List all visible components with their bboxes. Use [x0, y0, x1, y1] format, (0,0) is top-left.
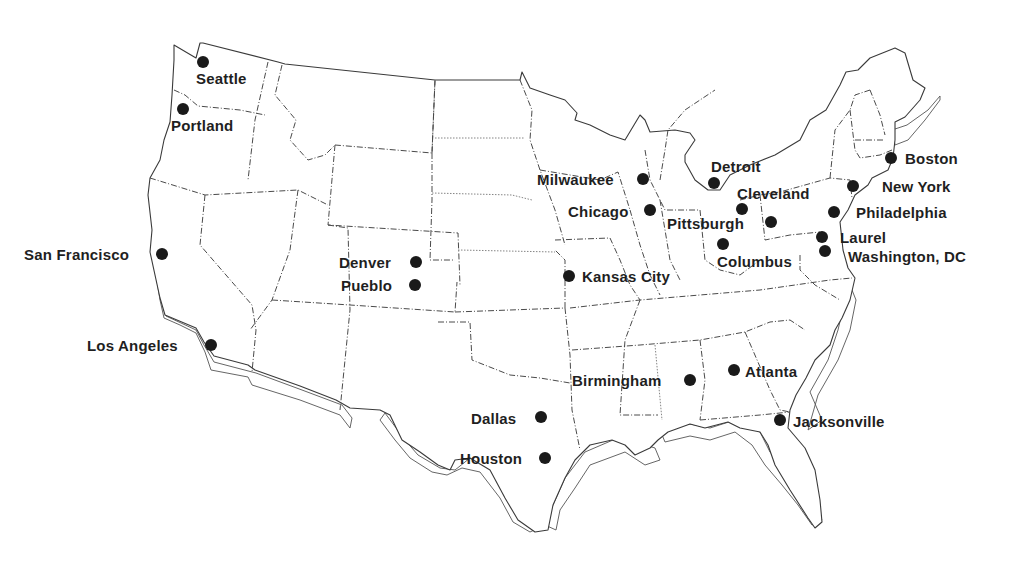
city-dot-washington-dc[interactable]	[819, 245, 831, 257]
city-dot-los-angeles[interactable]	[205, 339, 217, 351]
city-label-philadelphia: Philadelphia	[856, 204, 947, 221]
city-dot-boston[interactable]	[885, 152, 897, 164]
city-dot-houston[interactable]	[539, 452, 551, 464]
city-dot-kansas-city[interactable]	[563, 270, 575, 282]
city-dot-denver[interactable]	[410, 256, 422, 268]
city-label-chicago: Chicago	[568, 203, 629, 220]
city-label-cleveland: Cleveland	[737, 185, 810, 202]
city-dot-cleveland[interactable]	[736, 203, 748, 215]
city-label-seattle: Seattle	[196, 70, 247, 87]
city-label-atlanta: Atlanta	[745, 363, 797, 380]
city-dot-new-york[interactable]	[847, 180, 859, 192]
city-label-san-francisco: San Francisco	[24, 246, 129, 263]
city-label-boston: Boston	[905, 150, 958, 167]
city-dot-detroit[interactable]	[708, 177, 720, 189]
city-dot-pueblo[interactable]	[409, 279, 421, 291]
city-label-kansas-city: Kansas City	[582, 268, 670, 285]
city-label-houston: Houston	[460, 450, 522, 467]
city-dot-milwaukee[interactable]	[637, 173, 649, 185]
city-dot-pittsburgh[interactable]	[765, 216, 777, 228]
city-label-jacksonville: Jacksonville	[793, 413, 885, 430]
city-label-new-york: New York	[882, 178, 951, 195]
city-dot-laurel[interactable]	[816, 231, 828, 243]
city-dot-columbus[interactable]	[717, 238, 729, 250]
us-map	[0, 0, 1013, 564]
city-dot-philadelphia[interactable]	[828, 206, 840, 218]
city-label-columbus: Columbus	[717, 253, 792, 270]
city-label-birmingham: Birmingham	[572, 372, 662, 389]
city-dot-atlanta[interactable]	[728, 364, 740, 376]
city-label-portland: Portland	[171, 117, 233, 134]
city-label-pittsburgh: Pittsburgh	[667, 215, 744, 232]
city-dot-portland[interactable]	[177, 103, 189, 115]
city-label-los-angeles: Los Angeles	[87, 337, 178, 354]
city-label-dallas: Dallas	[471, 410, 516, 427]
city-dot-birmingham[interactable]	[684, 374, 696, 386]
city-dot-dallas[interactable]	[535, 411, 547, 423]
city-label-washington-dc: Washington, DC	[848, 248, 966, 265]
city-dot-chicago[interactable]	[644, 204, 656, 216]
city-label-pueblo: Pueblo	[341, 277, 392, 294]
city-dot-seattle[interactable]	[197, 56, 209, 68]
city-label-laurel: Laurel	[840, 229, 886, 246]
city-dot-jacksonville[interactable]	[774, 414, 786, 426]
city-label-milwaukee: Milwaukee	[537, 171, 614, 188]
city-dot-san-francisco[interactable]	[156, 248, 168, 260]
us-outline	[148, 43, 925, 532]
city-label-detroit: Detroit	[711, 158, 761, 175]
city-label-denver: Denver	[339, 254, 391, 271]
